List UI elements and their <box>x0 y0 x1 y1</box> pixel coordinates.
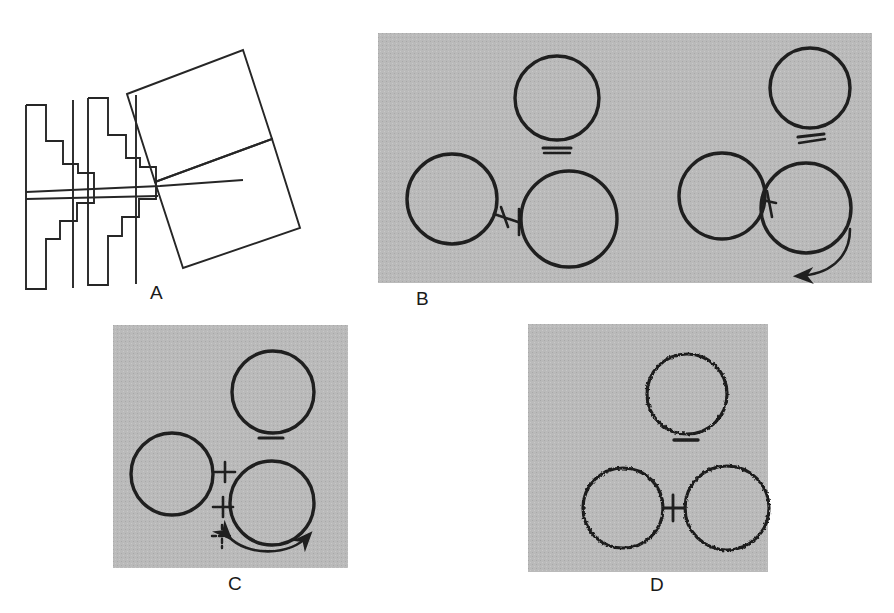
panel-b-label: B <box>416 288 429 310</box>
median-line <box>26 180 243 192</box>
panel-c: C <box>113 325 348 568</box>
figure-canvas: A <box>0 0 894 613</box>
panel-d-background <box>528 324 768 572</box>
panel-b: B <box>378 33 872 283</box>
panel-d-drawing <box>528 324 768 572</box>
panel-c-background <box>113 325 348 568</box>
rotated-quad-lower <box>155 139 300 268</box>
staircase-mid-upper <box>88 98 156 190</box>
panel-a-drawing <box>0 0 370 310</box>
panel-b-drawing <box>378 33 872 283</box>
rotated-quad-upper <box>127 50 272 182</box>
panel-c-drawing <box>113 325 348 568</box>
panel-d-label: D <box>650 574 664 596</box>
panel-a-label: A <box>150 282 163 304</box>
panel-c-label: C <box>228 573 242 595</box>
panel-a: A <box>0 0 370 310</box>
staircase-mid-lower <box>88 98 156 285</box>
panel-d: D <box>528 324 768 572</box>
staircase-left-upper <box>26 105 94 192</box>
